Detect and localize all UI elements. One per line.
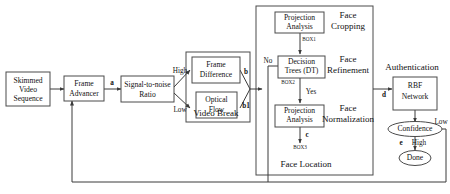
- node-done: Done: [399, 151, 431, 166]
- node-done-label: Done: [407, 153, 424, 162]
- section-face-cropping: Face Cropping: [331, 10, 366, 31]
- section-authentication: Authentication: [385, 62, 439, 72]
- node-snr-line1: Signal-to-noise: [124, 80, 171, 89]
- node-frame-advancer-line1: Frame: [74, 79, 94, 88]
- edge-label-b1: b1: [242, 102, 250, 110]
- node-projection1-line1: Projection: [284, 13, 315, 22]
- node-frame-advancer-line2: Advancer: [69, 89, 99, 98]
- box-tag-box2: BOX2: [281, 79, 295, 85]
- edge-label-high-confidence: High: [412, 139, 427, 147]
- edge-confidence-low-feedback: [442, 129, 446, 182]
- node-signal-to-noise-ratio: Signal-to-noise Ratio: [121, 76, 174, 102]
- node-skimmed-video-line3: Sequence: [13, 94, 43, 103]
- node-rbf-network: RBF Network: [393, 77, 437, 110]
- node-rbf-line1: RBF: [408, 81, 422, 90]
- node-frame-advancer: Frame Advancer: [64, 76, 104, 101]
- node-snr-line2: Ratio: [139, 90, 156, 99]
- edge-label-d: d: [382, 91, 386, 99]
- box-tag-box3: BOX3: [293, 144, 307, 150]
- node-projection1-line2: Analysis: [286, 22, 313, 31]
- edge-label-a: a: [110, 79, 114, 87]
- section-face-refinement: Face Refinement: [327, 54, 369, 75]
- node-frame-difference-line1: Frame: [206, 60, 226, 69]
- node-projection2-line2: Analysis: [286, 115, 313, 124]
- edge-label-no: No: [264, 57, 273, 65]
- node-decision-trees-line1: Decision: [288, 57, 315, 66]
- group-label-face-location: Face Location: [280, 159, 332, 169]
- edge-feedback-to-frame-advancer: [72, 101, 446, 182]
- node-frame-difference-line2: Difference: [200, 70, 233, 79]
- edge-label-e: e: [399, 139, 402, 147]
- box-tag-box1: BOX1: [302, 36, 316, 42]
- flowchart-diagram: Skimmed Video Sequence Frame Advancer Si…: [0, 0, 450, 194]
- node-confidence-label: Confidence: [397, 124, 433, 133]
- section-face-normalization-line1: Face: [340, 103, 357, 113]
- section-face-normalization: Face Normalization: [322, 103, 374, 124]
- node-projection-analysis-cropping: Projection Analysis: [275, 12, 324, 33]
- node-rbf-line2: Network: [402, 92, 429, 101]
- node-projection-analysis-normalization: Projection Analysis: [275, 105, 324, 127]
- edge-label-b: b: [244, 68, 248, 76]
- node-optical-flow-line1: Optical: [205, 95, 227, 104]
- node-decision-trees: Decision Trees (DT): [278, 56, 325, 78]
- edge-label-yes: Yes: [306, 88, 317, 96]
- section-face-refinement-line2: Refinement: [327, 65, 369, 75]
- node-skimmed-video-line2: Video: [19, 85, 37, 94]
- edge-label-low-confidence: Low: [434, 118, 448, 126]
- section-face-refinement-line1: Face: [340, 54, 357, 64]
- section-face-cropping-line2: Cropping: [331, 21, 366, 31]
- flowchart-canvas: Skimmed Video Sequence Frame Advancer Si…: [0, 0, 450, 194]
- edge-label-low-snr: Low: [173, 106, 187, 114]
- node-decision-trees-line2: Trees (DT): [285, 66, 319, 75]
- node-skimmed-video-sequence: Skimmed Video Sequence: [6, 72, 50, 106]
- node-projection2-line1: Projection: [284, 106, 315, 115]
- node-frame-difference: Frame Difference: [192, 57, 240, 83]
- section-face-cropping-line1: Face: [340, 10, 357, 20]
- edge-label-c: c: [305, 131, 309, 139]
- section-face-normalization-line2: Normalization: [322, 114, 374, 124]
- group-label-video-break: Video Break: [193, 108, 239, 118]
- edge-label-high-snr: High: [173, 67, 188, 75]
- node-skimmed-video-line1: Skimmed: [13, 76, 42, 85]
